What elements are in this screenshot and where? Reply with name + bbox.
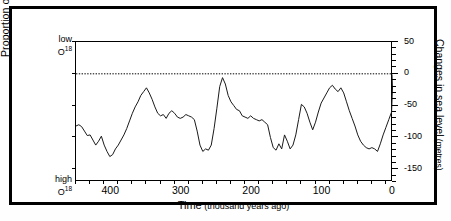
left-axis-low-label: low O18 bbox=[28, 35, 72, 57]
sea-level-line-chart bbox=[76, 42, 393, 182]
left-axis-title-text: Proportion of O bbox=[0, 0, 11, 57]
axis-tick bbox=[392, 41, 398, 42]
axis-tick bbox=[392, 124, 396, 125]
axis-tick bbox=[392, 130, 396, 131]
axis-tick bbox=[272, 181, 273, 184]
x-axis-tick-label: 400 bbox=[90, 185, 130, 196]
axis-tick bbox=[160, 181, 161, 184]
right-axis-tick-label: -50 bbox=[404, 100, 417, 109]
axis-tick bbox=[392, 149, 396, 150]
axis-tick bbox=[117, 181, 118, 184]
left-axis-low-line2: O18 bbox=[28, 44, 72, 57]
axis-tick bbox=[392, 54, 396, 55]
right-axis-title-unit: (metres) bbox=[434, 136, 444, 170]
axis-tick bbox=[286, 181, 287, 184]
axis-tick bbox=[72, 41, 76, 42]
axis-tick bbox=[145, 181, 146, 184]
axis-tick bbox=[75, 181, 76, 184]
axis-tick bbox=[103, 181, 104, 184]
plot-area bbox=[75, 41, 392, 181]
left-axis-high-label: high O18 bbox=[26, 175, 72, 197]
left-axis-low-line1: low bbox=[28, 35, 72, 44]
axis-tick bbox=[392, 105, 398, 106]
left-axis-title: Proportion of O18 (‰) bbox=[0, 0, 11, 57]
axis-tick bbox=[188, 181, 189, 184]
right-axis-tick-label: 50 bbox=[404, 37, 414, 46]
axis-tick bbox=[343, 181, 344, 184]
axis-tick bbox=[392, 86, 396, 87]
axis-tick bbox=[392, 181, 396, 182]
axis-tick bbox=[72, 105, 76, 106]
axis-tick bbox=[258, 181, 259, 184]
axis-tick bbox=[392, 111, 396, 112]
sea-level-data-line bbox=[76, 75, 393, 156]
axis-tick bbox=[392, 98, 396, 99]
axis-tick bbox=[174, 181, 175, 184]
figure-container: Proportion of O18 (‰) low O18 high O18 C… bbox=[0, 0, 451, 221]
axis-tick bbox=[202, 181, 203, 184]
axis-tick bbox=[371, 181, 372, 184]
x-axis-title: Time (thousand years ago) bbox=[75, 199, 392, 211]
axis-tick bbox=[392, 60, 396, 61]
axis-tick bbox=[72, 73, 76, 74]
axis-tick bbox=[392, 117, 396, 118]
axis-tick bbox=[392, 175, 396, 176]
axis-tick bbox=[392, 66, 396, 67]
right-axis-tick-label: -150 bbox=[404, 164, 422, 173]
x-axis-tick-label: 300 bbox=[161, 185, 201, 196]
left-axis-high-line2: O18 bbox=[26, 184, 72, 197]
x-axis-tick-label: 0 bbox=[372, 185, 412, 196]
left-axis-high-line1: high bbox=[26, 175, 72, 184]
axis-tick bbox=[72, 136, 76, 137]
axis-tick bbox=[392, 47, 396, 48]
x-axis-title-main: Time bbox=[178, 199, 202, 211]
axis-tick bbox=[244, 181, 245, 184]
axis-tick bbox=[72, 168, 76, 169]
right-axis-tick-label: -100 bbox=[404, 132, 422, 141]
x-axis-tick-label: 100 bbox=[302, 185, 342, 196]
axis-tick bbox=[392, 92, 396, 93]
axis-tick bbox=[216, 181, 217, 184]
axis-tick bbox=[230, 181, 231, 184]
axis-tick bbox=[392, 162, 396, 163]
axis-tick bbox=[357, 181, 358, 184]
x-axis-title-unit: (thousand years ago) bbox=[202, 201, 290, 211]
figure-frame: Proportion of O18 (‰) low O18 high O18 C… bbox=[9, 6, 437, 205]
axis-tick bbox=[385, 181, 386, 184]
axis-tick bbox=[89, 181, 90, 184]
axis-tick bbox=[315, 181, 316, 184]
axis-tick bbox=[392, 79, 396, 80]
axis-tick bbox=[392, 156, 396, 157]
right-axis-title: Changes in sea level (metres) bbox=[434, 39, 446, 199]
axis-tick bbox=[329, 181, 330, 184]
axis-tick bbox=[300, 181, 301, 184]
axis-tick bbox=[392, 143, 396, 144]
axis-tick bbox=[392, 136, 398, 137]
axis-tick bbox=[392, 168, 398, 169]
axis-tick bbox=[131, 181, 132, 184]
right-axis-title-main: Changes in sea level bbox=[434, 39, 446, 136]
axis-tick bbox=[392, 73, 398, 74]
right-axis-tick-label: 0 bbox=[404, 68, 409, 77]
x-axis-tick-label: 200 bbox=[231, 185, 271, 196]
